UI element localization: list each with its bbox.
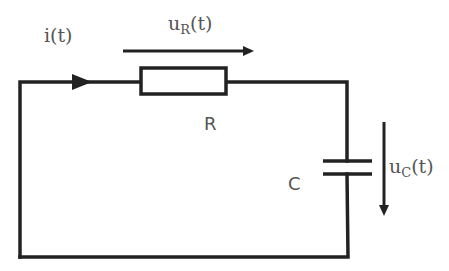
circuit-diagram: i(t) uR(t) R C uC(t)	[0, 0, 449, 271]
resistor-voltage-arrow-icon	[123, 46, 254, 56]
current-direction-arrow-icon	[72, 74, 92, 90]
circuit-wires	[20, 82, 348, 257]
current-label: i(t)	[44, 24, 73, 46]
resistor	[141, 68, 226, 94]
wire-top-left	[20, 82, 141, 257]
resistor-label: R	[204, 113, 217, 134]
capacitor-voltage-arrow-icon	[379, 122, 389, 216]
resistor-voltage-label: uR(t)	[168, 12, 213, 37]
wire-top-right	[226, 82, 347, 161]
capacitor	[323, 161, 372, 174]
capacitor-voltage-label: uC(t)	[389, 155, 434, 180]
capacitor-label: C	[288, 173, 301, 194]
